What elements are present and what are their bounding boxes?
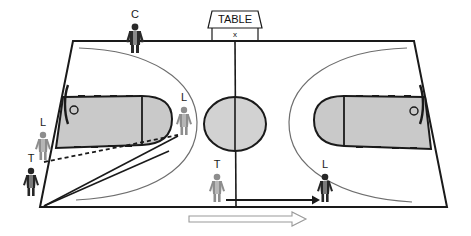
lane-mark bbox=[356, 146, 363, 148]
official-l-sideline-label: L bbox=[40, 116, 46, 128]
table-label: TABLE bbox=[218, 13, 252, 25]
arrow-direction-of-play-shape bbox=[189, 212, 306, 226]
court-diagram-svg: TABLE x bbox=[0, 0, 471, 236]
official-t-sideline[interactable]: T bbox=[23, 152, 39, 196]
lane-mark bbox=[74, 146, 81, 148]
official-l-sideline[interactable]: L bbox=[35, 116, 51, 160]
official-t-sideline-label: T bbox=[28, 152, 35, 164]
key-right-shaded-lane bbox=[314, 96, 431, 149]
lane-mark bbox=[392, 147, 399, 149]
lane-mark bbox=[91, 146, 98, 148]
lane-mark bbox=[374, 146, 381, 148]
lane-mark bbox=[126, 95, 133, 97]
lane-mark bbox=[410, 147, 417, 149]
court-diagram-canvas: TABLE x bbox=[0, 0, 471, 236]
lane-mark bbox=[356, 95, 363, 97]
lane-mark bbox=[108, 145, 115, 147]
table-marker-x: x bbox=[233, 30, 237, 39]
referee-figure-icon bbox=[35, 132, 51, 160]
official-l-right-label: L bbox=[322, 158, 328, 170]
lane-mark bbox=[404, 95, 411, 97]
referee-figure-icon bbox=[23, 168, 39, 196]
official-l-left-wing-label: L bbox=[181, 91, 187, 103]
official-c-label: C bbox=[131, 8, 139, 20]
lane-mark bbox=[94, 95, 101, 97]
lane-mark bbox=[110, 95, 117, 97]
lane-mark bbox=[372, 95, 379, 97]
lane-mark bbox=[78, 95, 85, 97]
lane-mark bbox=[388, 95, 395, 97]
arrow-direction-of-play bbox=[189, 212, 306, 226]
scorer-table-group: TABLE x bbox=[208, 11, 262, 41]
official-t-center-label: T bbox=[214, 158, 221, 170]
